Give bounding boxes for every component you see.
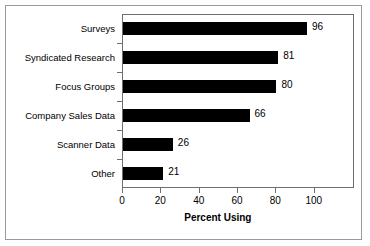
x-axis-tick [275, 188, 276, 193]
bar-row: 80 [123, 73, 353, 102]
category-label: Scanner Data [57, 130, 115, 159]
bar-row: 81 [123, 44, 353, 73]
category-label: Other [91, 159, 115, 188]
x-axis-tick [122, 188, 123, 193]
category-label: Company Sales Data [25, 101, 115, 130]
bar-value-label: 96 [312, 20, 323, 33]
x-axis-tick [237, 188, 238, 193]
bar-value-label: 80 [281, 78, 292, 91]
bar [123, 138, 173, 151]
x-axis-tick-label: 100 [305, 195, 322, 207]
x-axis-title: Percent Using [184, 212, 251, 223]
category-label: Focus Groups [55, 72, 115, 101]
bar-row: 96 [123, 15, 353, 44]
bar-row: 26 [123, 131, 353, 160]
x-axis-tick-label: 20 [155, 195, 166, 207]
bar [123, 80, 276, 93]
bar-value-label: 21 [168, 165, 179, 178]
x-axis-tick [160, 188, 161, 193]
bar-value-label: 81 [283, 49, 294, 62]
category-label: Syndicated Research [25, 43, 115, 72]
plot-area: 968180662621 [122, 14, 354, 188]
x-axis-tick-label: 80 [270, 195, 281, 207]
bar [123, 22, 307, 35]
bars-layer: 968180662621 [123, 15, 353, 187]
category-axis-labels: Surveys Syndicated Research Focus Groups… [6, 14, 118, 188]
bar [123, 109, 250, 122]
category-label: Surveys [81, 14, 115, 43]
chart-figure: Surveys Syndicated Research Focus Groups… [5, 5, 362, 240]
bar-value-label: 66 [255, 107, 266, 120]
bar [123, 167, 163, 180]
x-axis-tick [199, 188, 200, 193]
x-axis: Percent Using 020406080100 [122, 188, 354, 236]
bar-value-label: 26 [178, 136, 189, 149]
x-axis-tick-label: 40 [193, 195, 204, 207]
bar-row: 21 [123, 160, 353, 189]
bar-row: 66 [123, 102, 353, 131]
bar [123, 51, 278, 64]
x-axis-tick-label: 0 [119, 195, 125, 207]
x-axis-tick-label: 60 [231, 195, 242, 207]
x-axis-tick [314, 188, 315, 193]
